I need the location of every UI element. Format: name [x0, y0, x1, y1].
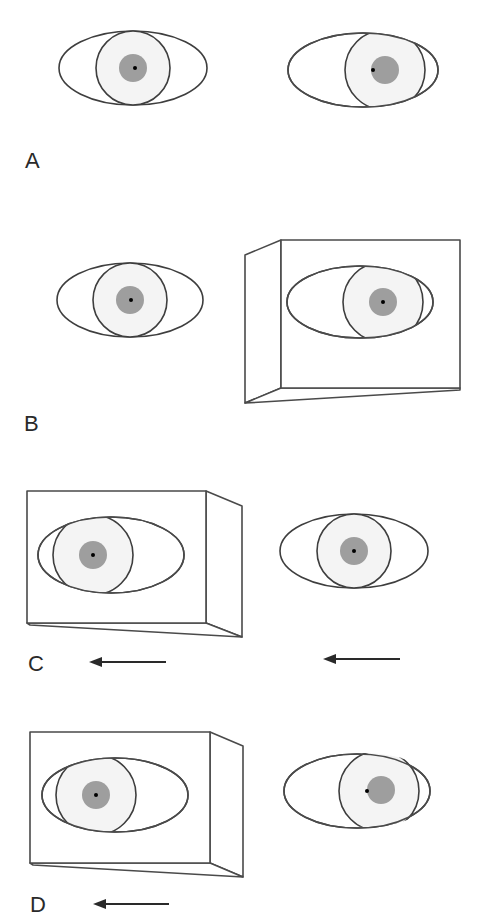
arrow-left-icon — [89, 657, 166, 667]
left-eye-icon — [57, 263, 203, 337]
panel-a: A — [25, 30, 438, 173]
right-eye-icon — [280, 514, 428, 588]
panel-b: B — [24, 240, 460, 436]
panel-label-b: B — [24, 411, 39, 436]
fixation-dot — [365, 789, 369, 793]
left-eye-icon — [38, 515, 184, 595]
panel-d: D — [30, 732, 430, 917]
fixation-dot — [133, 66, 137, 70]
arrow-left-icon — [93, 899, 169, 909]
fixation-dot — [129, 298, 133, 302]
eye-position-diagram: A B — [0, 0, 503, 919]
fixation-dot — [91, 553, 95, 557]
fixation-dot — [94, 793, 98, 797]
left-eye-icon — [59, 31, 207, 105]
panel-label-c: C — [28, 651, 44, 676]
right-eye-icon — [284, 751, 430, 831]
arrow-left-icon — [323, 654, 400, 664]
fixation-dot — [352, 549, 356, 553]
panel-label-d: D — [30, 892, 46, 917]
fixation-dot — [381, 300, 385, 304]
panel-label-a: A — [25, 148, 40, 173]
panel-c: C — [27, 491, 428, 676]
fixation-dot — [371, 68, 375, 72]
right-eye-icon — [288, 30, 438, 110]
